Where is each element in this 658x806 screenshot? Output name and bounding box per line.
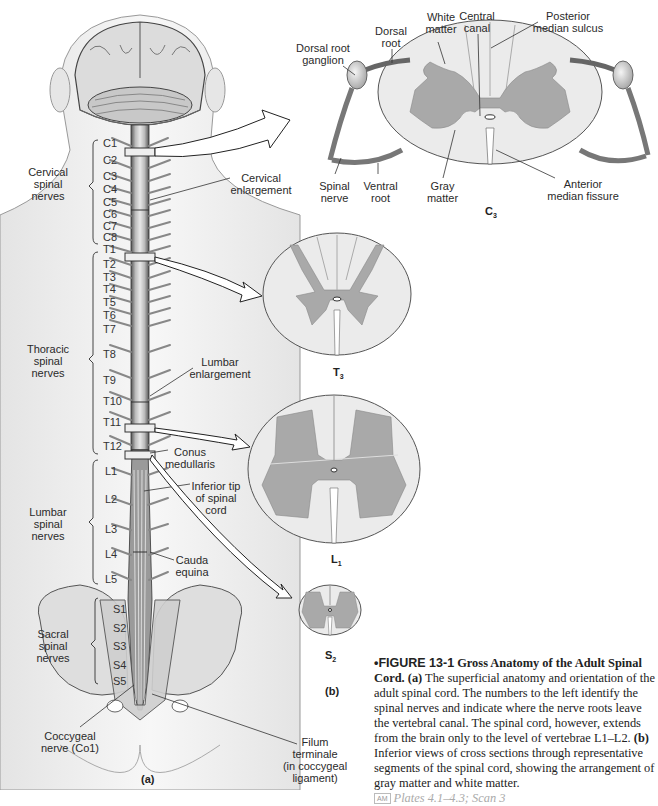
caption-a-marker: (a) [408,671,422,685]
segment-label: L1 [105,465,117,477]
segment-label: T3 [103,271,116,283]
segment-label: T4 [103,283,116,295]
segment-label: T7 [103,323,116,335]
segment-label: C1 [103,137,117,149]
l1-cross-section [248,395,420,543]
segment-label: T12 [103,440,122,452]
section-title-t3: T3 [333,366,344,380]
label-dorsal-root: Dorsal root [366,25,416,49]
segment-label: C3 [103,170,117,182]
caption-b-text: Inferior views of cross sections through… [374,746,654,790]
plates-reference: Plates 4.1–4.3; Scan 3 [394,791,506,805]
label-central-canal: Central canal [452,10,502,34]
label-posterior-median-sulcus: Posterior median sulcus [523,10,613,34]
segment-label: T10 [103,395,122,407]
label-coccygeal-nerve: Coccygeal nerve (Co1) [35,730,105,754]
label-inferior-tip: Inferior tip of spinal cord [186,480,246,516]
segment-label: S4 [113,659,126,671]
label-sacral-spinal-nerves: Sacral spinal nerves [18,628,88,664]
label-cervical-spinal-nerves: Cervical spinal nerves [8,166,88,202]
segment-label: L3 [105,523,117,535]
label-conus-medullaris: Conus medullaris [160,446,220,470]
s2-cross-section [299,585,361,635]
segment-label: L2 [105,493,117,505]
segment-label: T6 [103,309,116,321]
segment-label: C5 [103,196,117,208]
figure-caption: •FIGURE 13-1 Gross Anatomy of the Adult … [374,656,658,806]
label-dorsal-root-ganglion: Dorsal root ganglion [288,42,358,66]
label-cervical-enlargement: Cervical enlargement [226,172,296,196]
label-lumbar-spinal-nerves: Lumbar spinal nerves [8,506,88,542]
segment-label: S2 [113,622,126,634]
caption-vertebrae: L1–L2. [594,731,631,745]
segment-label: S1 [113,603,126,615]
t3-cross-section [263,233,411,355]
label-spinal-nerve: Spinal nerve [312,180,357,204]
figure-number: •FIGURE 13-1 [374,656,454,670]
segment-label: C4 [103,183,117,195]
label-gray-matter: Gray matter [420,180,465,204]
segment-label: T11 [103,416,121,428]
panel-b-label: (b) [325,685,339,697]
segment-label: L5 [105,573,117,585]
am-badge: AM [374,793,391,804]
label-cauda-equina: Cauda equina [167,554,217,578]
segment-label: L4 [105,548,117,560]
segment-label: C6 [103,208,117,220]
segment-label: T2 [103,258,116,270]
label-anterior-median-fissure: Anterior median fissure [538,178,628,202]
section-title-s2: S2 [325,649,336,663]
segment-label: S5 [113,675,126,687]
label-lumbar-enlargement: Lumbar enlargement [185,356,255,380]
section-title-l1: L1 [331,553,342,567]
label-thoracic-spinal-nerves: Thoracic spinal nerves [8,343,88,379]
label-filum-terminale: Filum terminale (in coccygeal ligament) [280,736,350,784]
segment-label: T8 [103,348,116,360]
panel-a-label: (a) [141,773,154,785]
caption-b-marker: (b) [634,731,649,745]
segment-label: T5 [103,296,116,308]
segment-label: T9 [103,374,116,386]
label-ventral-root: Ventral root [358,180,403,204]
brain [75,22,205,125]
segment-label: C8 [103,231,117,243]
segment-label: T1 [103,243,116,255]
segment-label: C2 [103,154,117,166]
segment-label: S3 [113,640,126,652]
section-title-c3: C3 [485,205,497,219]
